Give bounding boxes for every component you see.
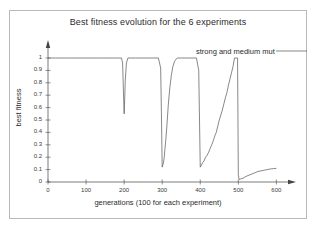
y-tick-label: 0.2 bbox=[22, 153, 42, 159]
chart-figure: Best fitness evolution for the 6 experim… bbox=[0, 0, 316, 229]
y-tick-label: 0.1 bbox=[22, 166, 42, 172]
y-tick-label: 0.6 bbox=[22, 104, 42, 110]
y-tick-label: 0 bbox=[22, 178, 42, 184]
axes-group bbox=[46, 40, 296, 184]
y-tick-label: 0.9 bbox=[22, 66, 42, 72]
x-tick-label: 300 bbox=[151, 187, 173, 193]
y-tick-label: 0.3 bbox=[22, 141, 42, 147]
y-tick-label: 0.4 bbox=[22, 128, 42, 134]
x-tick-label: 600 bbox=[265, 187, 287, 193]
x-tick-label: 200 bbox=[113, 187, 135, 193]
data-series-group bbox=[48, 58, 276, 180]
y-tick-label: 0.8 bbox=[22, 79, 42, 85]
x-tick-label: 0 bbox=[37, 187, 59, 193]
y-tick-label: 0.5 bbox=[22, 116, 42, 122]
x-tick-label: 500 bbox=[227, 187, 249, 193]
x-tick-label: 100 bbox=[75, 187, 97, 193]
y-tick-label: 1 bbox=[22, 54, 42, 60]
x-tick-label: 400 bbox=[189, 187, 211, 193]
y-tick-label: 0.7 bbox=[22, 91, 42, 97]
plot-area bbox=[0, 0, 316, 229]
